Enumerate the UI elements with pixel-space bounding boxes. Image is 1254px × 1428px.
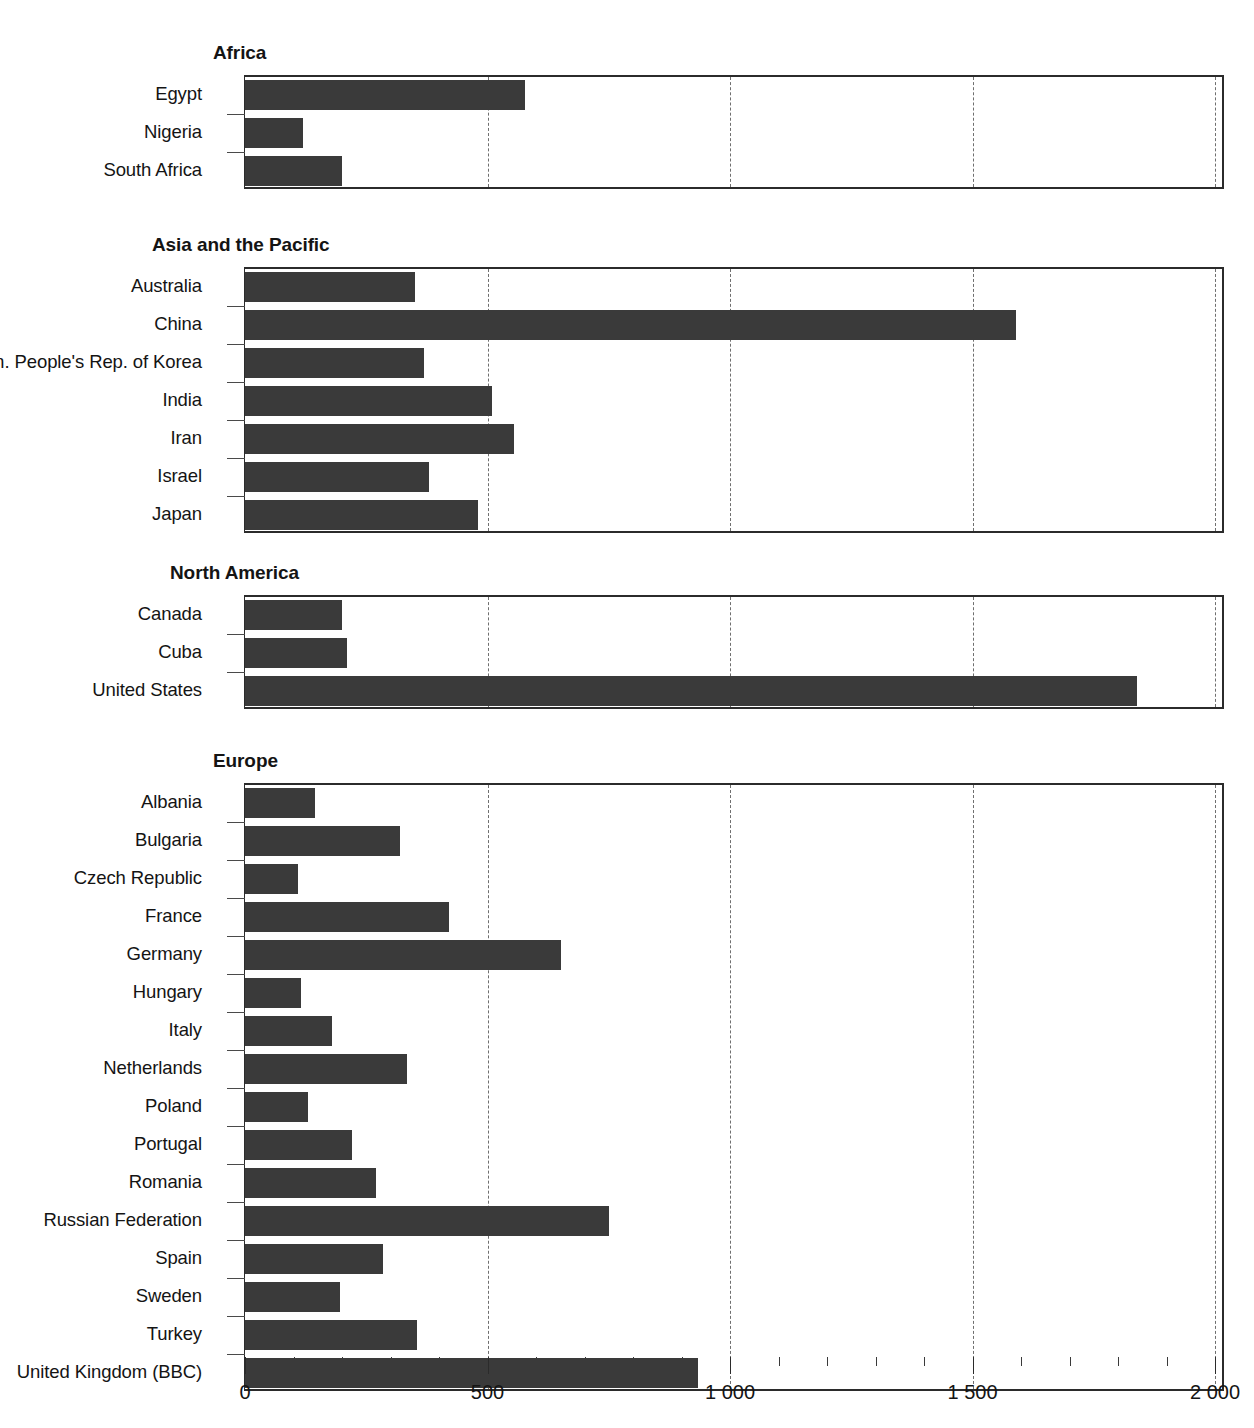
x-tick-major-0 xyxy=(245,1357,246,1374)
bar xyxy=(245,424,514,454)
category-label: Turkey xyxy=(147,1323,202,1345)
bar-row: Egypt xyxy=(245,77,1222,115)
y-tick xyxy=(227,634,245,635)
y-tick xyxy=(227,382,245,383)
x-tick-minor-400 xyxy=(439,1357,440,1366)
bar-row: Japan xyxy=(245,497,1222,535)
plot-area: AustraliaChinaDem. People's Rep. of Kore… xyxy=(245,267,1224,533)
category-label: Hungary xyxy=(133,981,202,1003)
x-axis: 05001 0001 5002 000 xyxy=(245,1357,1224,1427)
panel-title: Europe xyxy=(213,750,278,772)
bar-row: Hungary xyxy=(245,975,1222,1013)
x-tick-minor-200 xyxy=(342,1357,343,1366)
category-label: Spain xyxy=(155,1247,202,1269)
y-tick xyxy=(227,1240,245,1241)
grouped-bar-chart: AfricaEgyptNigeriaSouth AfricaAsia and t… xyxy=(0,0,1254,1428)
bar-row: India xyxy=(245,383,1222,421)
bar xyxy=(245,118,303,148)
category-label: Romania xyxy=(129,1171,202,1193)
x-tick-major-1000 xyxy=(730,1357,731,1374)
category-label: Poland xyxy=(145,1095,202,1117)
bar-row: Sweden xyxy=(245,1279,1222,1317)
bar xyxy=(245,826,400,856)
bar-row: Bulgaria xyxy=(245,823,1222,861)
bar-row: Australia xyxy=(245,269,1222,307)
y-tick xyxy=(227,974,245,975)
x-tick-label: 500 xyxy=(471,1381,504,1404)
category-label: Australia xyxy=(131,275,202,297)
bar-row: France xyxy=(245,899,1222,937)
bar xyxy=(245,940,561,970)
x-tick-minor-300 xyxy=(391,1357,392,1366)
y-tick xyxy=(227,1088,245,1089)
bar-row: China xyxy=(245,307,1222,345)
bar-row: Spain xyxy=(245,1241,1222,1279)
category-label: Iran xyxy=(171,427,202,449)
bar xyxy=(245,864,298,894)
x-tick-major-2000 xyxy=(1215,1357,1216,1374)
x-tick-major-500 xyxy=(488,1357,489,1374)
category-label: South Africa xyxy=(103,159,202,181)
panel-title: Africa xyxy=(213,42,266,64)
bar xyxy=(245,500,478,530)
y-tick xyxy=(227,1164,245,1165)
y-tick xyxy=(227,860,245,861)
category-label: Portugal xyxy=(134,1133,202,1155)
panel-title: North America xyxy=(170,562,299,584)
y-tick xyxy=(227,306,245,307)
bar xyxy=(245,80,525,110)
x-tick-minor-700 xyxy=(585,1357,586,1366)
x-tick-major-1500 xyxy=(973,1357,974,1374)
category-label: Albania xyxy=(141,791,202,813)
bar xyxy=(245,1206,609,1236)
bar xyxy=(245,1244,383,1274)
bar xyxy=(245,1092,308,1122)
bar xyxy=(245,638,347,668)
bar xyxy=(245,348,424,378)
category-label: Bulgaria xyxy=(135,829,202,851)
x-tick-minor-600 xyxy=(536,1357,537,1366)
y-tick xyxy=(227,114,245,115)
y-tick xyxy=(227,672,245,673)
x-tick-minor-1600 xyxy=(1021,1357,1022,1366)
bar-row: Dem. People's Rep. of Korea xyxy=(245,345,1222,383)
category-label: Nigeria xyxy=(144,121,202,143)
bar-row: Nigeria xyxy=(245,115,1222,153)
bar-row: Albania xyxy=(245,785,1222,823)
bar xyxy=(245,676,1137,706)
bar xyxy=(245,1016,332,1046)
bar xyxy=(245,788,315,818)
y-tick xyxy=(227,936,245,937)
bar-row: Romania xyxy=(245,1165,1222,1203)
bar xyxy=(245,310,1016,340)
bar-row: Czech Republic xyxy=(245,861,1222,899)
y-tick xyxy=(227,822,245,823)
category-label: Dem. People's Rep. of Korea xyxy=(0,351,202,373)
x-tick-label: 2 000 xyxy=(1190,1381,1240,1404)
y-tick xyxy=(227,1012,245,1013)
y-tick xyxy=(227,1354,245,1355)
x-tick-label: 0 xyxy=(239,1381,250,1404)
x-tick-minor-1400 xyxy=(924,1357,925,1366)
x-tick-minor-1700 xyxy=(1070,1357,1071,1366)
y-tick xyxy=(227,1126,245,1127)
x-tick-minor-100 xyxy=(294,1357,295,1366)
bar-row: Poland xyxy=(245,1089,1222,1127)
y-tick xyxy=(227,152,245,153)
bar xyxy=(245,1282,340,1312)
category-label: Canada xyxy=(138,603,202,625)
category-label: Germany xyxy=(127,943,202,965)
plot-area: CanadaCubaUnited States xyxy=(245,595,1224,709)
bar-row: South Africa xyxy=(245,153,1222,191)
category-label: Egypt xyxy=(155,83,202,105)
bar xyxy=(245,1130,352,1160)
x-tick-label: 1 000 xyxy=(705,1381,755,1404)
bar xyxy=(245,156,342,186)
x-tick-minor-1100 xyxy=(779,1357,780,1366)
y-tick xyxy=(227,496,245,497)
category-label: China xyxy=(154,313,202,335)
x-tick-minor-1800 xyxy=(1118,1357,1119,1366)
bar xyxy=(245,462,429,492)
x-tick-minor-800 xyxy=(633,1357,634,1366)
bar-row: United States xyxy=(245,673,1222,711)
